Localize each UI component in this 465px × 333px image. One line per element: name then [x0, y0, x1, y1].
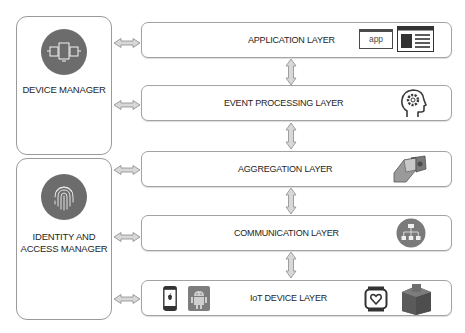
package-box-icon [400, 284, 433, 315]
arrow-device-manager-application [113, 38, 141, 48]
arrow-identity-communication [113, 232, 141, 242]
app-window-icon: app [359, 29, 393, 49]
event-processing-layer-label: EVENT PROCESSING LAYER [224, 86, 343, 120]
apple-phone-icon [163, 286, 177, 311]
aggregation-layer-label: AGGREGATION LAYER [238, 152, 332, 186]
application-layer: APPLICATION LAYER app [141, 22, 452, 58]
device-manager-label: DEVICE MANAGER [17, 84, 111, 96]
device-manager-box: DEVICE MANAGER [16, 16, 112, 155]
communication-layer-label: COMMUNICATION LAYER [234, 216, 339, 250]
communication-layer: COMMUNICATION LAYER [141, 215, 452, 251]
identity-access-manager-label: IDENTITY AND ACCESS MANAGER [17, 231, 111, 255]
smartwatch-heart-icon [364, 286, 388, 312]
web-page-icon [397, 26, 434, 52]
gateway-box-icon [392, 155, 428, 184]
arrow-identity-aggregation [113, 165, 141, 175]
arrow-application-event-processing [285, 58, 297, 86]
arrow-identity-iot-device [113, 294, 141, 304]
arrow-device-manager-event-processing [113, 100, 141, 110]
head-gear-icon [399, 88, 427, 118]
aggregation-layer: AGGREGATION LAYER [141, 151, 452, 187]
network-hierarchy-icon [396, 218, 426, 248]
identity-access-manager-box: IDENTITY AND ACCESS MANAGER [16, 158, 112, 320]
event-processing-layer: EVENT PROCESSING LAYER [141, 85, 452, 121]
application-layer-label: APPLICATION LAYER [248, 23, 335, 57]
arrow-event-processing-aggregation [285, 122, 297, 150]
svg-text:app: app [369, 34, 383, 44]
android-icon [188, 286, 210, 311]
devices-icon [41, 29, 87, 75]
iot-device-layer-label: IoT DEVICE LAYER [250, 281, 327, 315]
arrow-aggregation-communication [285, 187, 297, 215]
fingerprint-icon [41, 174, 87, 220]
iot-device-layer: IoT DEVICE LAYER [141, 280, 452, 316]
arrow-communication-iot-device [285, 251, 297, 279]
